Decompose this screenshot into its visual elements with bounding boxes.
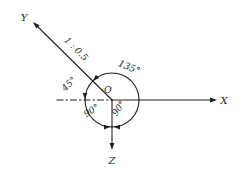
arc-45-arrowhead: [83, 93, 88, 100]
y-axis-label: Y: [21, 12, 29, 23]
arc-90-left-arrowhead: [104, 125, 111, 130]
arc-90-right-arrowhead: [113, 125, 120, 130]
angle-90-left-label: 90°: [82, 102, 101, 119]
y-axis-scale-label: 1 : 0.5: [62, 35, 90, 63]
axes-diagram: Y X Z O 1 : 0.5 135° 45° 90° 90°: [0, 0, 245, 172]
z-axis-arrowhead: [110, 143, 115, 150]
axes-diagram-canvas: Y X Z O 1 : 0.5 135° 45° 90° 90°: [0, 0, 245, 172]
diagram-labels: Y X Z O 1 : 0.5 135° 45° 90° 90°: [21, 12, 229, 166]
z-axis-label: Z: [108, 155, 117, 166]
origin-label: O: [104, 84, 112, 95]
angle-135-label: 135°: [117, 57, 142, 76]
angle-arc-45: [85, 81, 93, 100]
angle-arc-135: [93, 73, 139, 100]
angle-45-label: 45°: [59, 75, 78, 94]
x-axis-label: X: [219, 95, 228, 106]
y-axis-line: [35, 24, 112, 100]
x-axis-arrowhead: [210, 98, 217, 103]
